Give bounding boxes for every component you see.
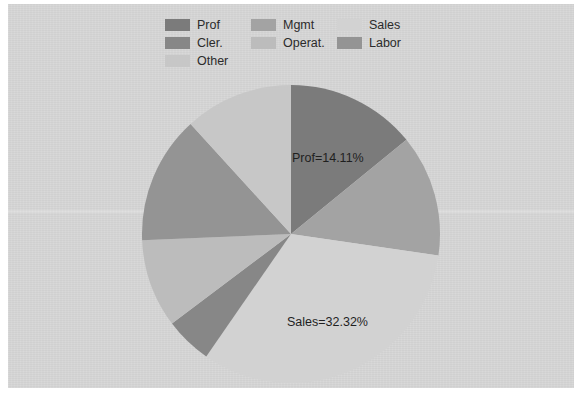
pie-svg: [141, 84, 441, 384]
pie-slice-group: [142, 85, 440, 383]
legend-label-operat: Operat.: [283, 37, 325, 50]
legend-swatch-mgmt-icon: [251, 19, 276, 31]
legend-swatch-operat-icon: [251, 37, 276, 49]
legend-item-cler[interactable]: Cler.: [165, 34, 251, 52]
legend-label-prof: Prof: [197, 19, 220, 32]
legend-item-operat[interactable]: Operat.: [251, 34, 337, 52]
pie-label-sales: Sales=32.32%: [287, 316, 368, 329]
legend-item-sales[interactable]: Sales: [337, 16, 423, 34]
legend-item-prof[interactable]: Prof: [165, 16, 251, 34]
legend-swatch-sales-icon: [337, 19, 362, 31]
legend-label-mgmt: Mgmt: [283, 19, 314, 32]
pie-label-prof: Prof=14.11%: [292, 152, 364, 165]
legend-swatch-cler-icon: [165, 37, 190, 49]
pie-graphic: Prof=14.11% Sales=32.32%: [141, 84, 441, 384]
legend-label-sales: Sales: [369, 19, 400, 32]
legend-item-other[interactable]: Other: [165, 52, 251, 70]
legend-swatch-prof-icon: [165, 19, 190, 31]
legend-swatch-labor-icon: [337, 37, 362, 49]
legend-item-mgmt[interactable]: Mgmt: [251, 16, 337, 34]
legend-label-labor: Labor: [369, 37, 401, 50]
pie-chart-figure: Prof Mgmt Sales Cler. Operat. Labor: [0, 0, 581, 399]
legend-label-other: Other: [197, 55, 228, 68]
plot-panel: Prof Mgmt Sales Cler. Operat. Labor: [8, 4, 574, 388]
chart-legend: Prof Mgmt Sales Cler. Operat. Labor: [165, 16, 435, 70]
legend-label-cler: Cler.: [197, 37, 223, 50]
legend-swatch-other-icon: [165, 55, 190, 67]
legend-item-labor[interactable]: Labor: [337, 34, 423, 52]
